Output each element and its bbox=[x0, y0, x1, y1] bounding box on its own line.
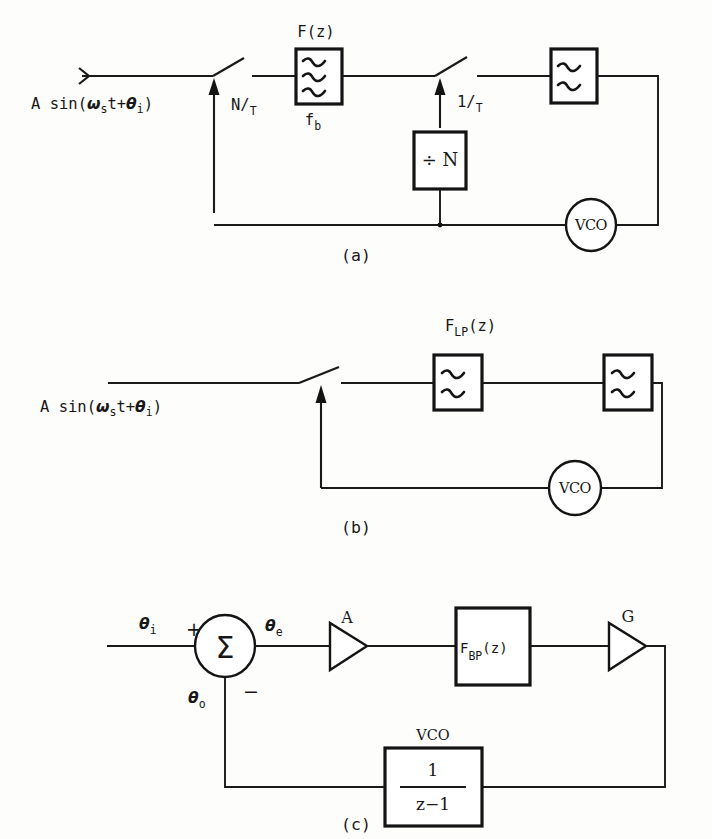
panel-c-plus-sign: + bbox=[186, 618, 202, 640]
panel-a-filter-label: F(z) bbox=[297, 23, 334, 41]
panel-a-group: A sin(ωst+θi) N/T F(z) fb 1/T ÷ N VCO (a… bbox=[31, 23, 658, 265]
panel-c-amplifier-g bbox=[609, 623, 646, 670]
panel-c-gain-a-label: A bbox=[340, 608, 353, 627]
panel-b-input-label: A sin(ωst+θi) bbox=[40, 398, 162, 419]
panel-a-input-label: A sin(ωst+θi) bbox=[31, 95, 153, 116]
panel-a-lpf-block bbox=[551, 49, 597, 103]
panel-c-group: Σ FBP(z) 1 z−1 VCO bbox=[107, 607, 665, 834]
panel-c-theta-out-label: θo bbox=[188, 689, 206, 711]
panel-c-theta-err-label: θe bbox=[265, 617, 283, 639]
panel-a-right-feedback-wire bbox=[597, 76, 658, 225]
panel-a-switch-2-blade bbox=[435, 57, 467, 76]
panel-a-caption: (a) bbox=[341, 246, 371, 265]
panel-a-divider-label: ÷ N bbox=[422, 149, 459, 170]
panel-b-group: A sin(ωst+θi) FLP(z) VCO (b) bbox=[40, 317, 662, 537]
panel-a-clock-2-arrowhead-icon bbox=[435, 78, 446, 95]
panel-a-clock2-label: 1/T bbox=[457, 93, 483, 115]
panel-a-switch-1-blade bbox=[213, 58, 244, 76]
panel-b-caption: (b) bbox=[341, 518, 371, 537]
panel-a-clock1-label: N/T bbox=[231, 96, 257, 118]
panel-b-lpf2-block bbox=[604, 355, 652, 410]
panel-c-sum-symbol: Σ bbox=[216, 630, 235, 665]
panel-b-lpf1-block bbox=[434, 355, 482, 410]
panel-c-vco-numerator: 1 bbox=[428, 760, 439, 780]
panel-c-theta-in-label: θi bbox=[139, 615, 157, 637]
panel-a-filter-sublabel: fb bbox=[305, 111, 321, 133]
panel-c-vco-denominator: z−1 bbox=[416, 794, 450, 814]
panel-a-junction-dot bbox=[438, 223, 443, 228]
panel-c-gain-g-label: G bbox=[622, 607, 635, 626]
panel-c-vco-label: VCO bbox=[415, 727, 450, 743]
panel-b-switch-blade bbox=[299, 367, 339, 383]
panel-a-vco-label: VCO bbox=[574, 217, 608, 233]
panel-c-amplifier-a bbox=[330, 623, 367, 670]
panel-b-filter-label: FLP(z) bbox=[445, 317, 496, 339]
panel-a-clock-1-arrowhead-icon bbox=[209, 78, 220, 95]
panel-c-minus-sign: − bbox=[243, 680, 259, 702]
figure-page: A sin(ωst+θi) N/T F(z) fb 1/T ÷ N VCO (a… bbox=[0, 0, 712, 839]
block-diagram-svg: A sin(ωst+θi) N/T F(z) fb 1/T ÷ N VCO (a… bbox=[0, 0, 712, 839]
panel-b-vco-label: VCO bbox=[558, 480, 592, 496]
panel-b-clock-arrowhead-icon bbox=[316, 385, 327, 403]
panel-c-caption: (c) bbox=[341, 815, 371, 834]
